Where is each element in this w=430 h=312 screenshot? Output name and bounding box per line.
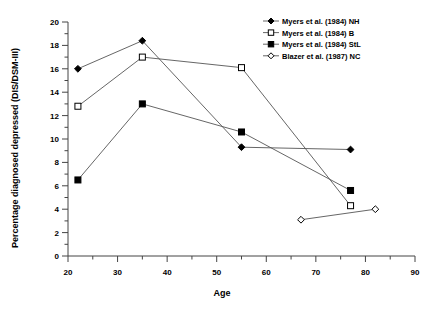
x-tick-label: 90	[411, 268, 420, 277]
y-tick-label: 14	[50, 88, 59, 97]
chart-container: 02468101214161820 2030405060708090 Perce…	[0, 0, 430, 312]
y-tick-label: 18	[50, 41, 59, 50]
data-point	[348, 203, 354, 209]
data-point	[75, 177, 81, 183]
x-tick-label: 40	[163, 268, 172, 277]
x-tick-label: 20	[64, 268, 73, 277]
x-tick-label: 60	[262, 268, 271, 277]
chart-background	[0, 0, 430, 312]
data-point	[139, 54, 145, 60]
x-tick-label: 50	[212, 268, 221, 277]
y-tick-label: 10	[50, 135, 59, 144]
y-tick-label: 2	[55, 229, 60, 238]
y-tick-label: 4	[55, 205, 60, 214]
data-point	[75, 103, 81, 109]
legend-label: Myers et al. (1984) NH	[282, 17, 360, 26]
data-point	[348, 187, 354, 193]
data-point	[239, 129, 245, 135]
x-tick-label: 80	[361, 268, 370, 277]
data-point	[139, 101, 145, 107]
x-tick-label: 30	[113, 268, 122, 277]
x-axis-title: Age	[213, 288, 230, 298]
y-axis-title: Percentage diagnosed depressed (DIS/DSM-…	[10, 48, 20, 248]
line-chart: 02468101214161820 2030405060708090 Perce…	[0, 0, 430, 312]
x-tick-label: 70	[311, 268, 320, 277]
y-tick-label: 6	[55, 182, 60, 191]
legend-label: Myers et al. (1984) B	[282, 29, 355, 38]
legend-label: Blazer et al. (1987) NC	[282, 52, 361, 61]
y-tick-label: 20	[50, 18, 59, 27]
y-tick-label: 16	[50, 65, 59, 74]
y-tick-label: 0	[55, 252, 60, 261]
data-point	[239, 65, 245, 71]
legend-marker	[268, 30, 273, 35]
legend-marker	[268, 42, 273, 47]
y-tick-label: 12	[50, 112, 59, 121]
y-tick-label: 8	[55, 158, 60, 167]
legend-label: Myers et al. (1984) StL	[282, 40, 361, 49]
